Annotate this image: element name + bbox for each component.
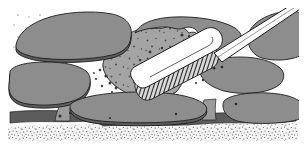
figure-root: Brush sweeping jointing sand between pav… bbox=[0, 0, 306, 146]
paving-cross-section-illustration bbox=[0, 0, 306, 146]
stone-right-lower bbox=[223, 93, 302, 124]
stone-bottom-middle bbox=[70, 92, 207, 126]
